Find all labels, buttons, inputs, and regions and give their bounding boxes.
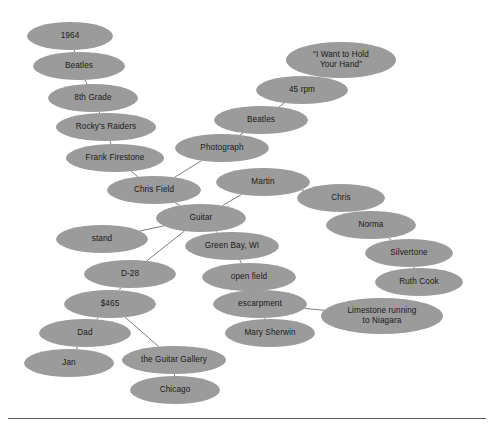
node-label: escarpment (238, 299, 282, 308)
node-label: Photograph (200, 143, 244, 152)
edge-n10-n11 (97, 318, 99, 320)
node-label: D-28 (121, 269, 139, 278)
edge-n26-n28 (305, 308, 325, 310)
concept-node[interactable]: 8th Grade (48, 84, 138, 112)
concept-map-page: 1964Beatles8th GradeRocky's RaidersFrank… (0, 0, 492, 433)
concept-node[interactable]: the Guitar Gallery (122, 346, 226, 374)
edge-n11-n12 (76, 347, 77, 349)
edge-n9-n10 (119, 288, 121, 291)
concept-node[interactable]: Beatles (214, 106, 308, 134)
node-label: Norma (358, 220, 383, 229)
node-label: “I Want to HoldYour Hand” (313, 50, 369, 70)
edge-n24-n25 (240, 260, 242, 263)
edge-n2-n3 (85, 80, 87, 84)
edge-n3-n4 (99, 112, 100, 113)
edge-n5-n6 (131, 171, 138, 177)
concept-node[interactable]: open field (202, 263, 296, 291)
node-label: Ruth Cook (399, 277, 439, 286)
edge-n6-n15 (174, 161, 201, 178)
concept-node[interactable]: Limestone runningto Niagara (321, 298, 443, 334)
edge-n21-n22 (389, 238, 392, 240)
concept-node[interactable]: Chris (297, 184, 385, 212)
concept-node[interactable]: 1964 (27, 22, 113, 50)
node-label: Beatles (65, 61, 93, 70)
node-label: Guitar (190, 213, 213, 222)
node-label: Rocky's Raiders (76, 122, 136, 131)
concept-node[interactable]: Silvertone (365, 239, 453, 267)
node-label: Jan (62, 358, 76, 367)
node-label: stand (92, 234, 113, 243)
footer-divider (8, 418, 486, 419)
concept-node[interactable]: Jan (24, 349, 114, 377)
concept-map-diagram: 1964Beatles8th GradeRocky's RaidersFrank… (0, 0, 492, 433)
edge-n7-n24 (216, 231, 218, 232)
concept-node[interactable]: Green Bay, WI (185, 232, 279, 260)
edge-n4-n5 (110, 141, 111, 144)
concept-node[interactable]: Martin (216, 168, 310, 196)
edge-n20-n21 (356, 211, 357, 212)
node-label: 1964 (61, 31, 80, 40)
node-label: Silvertone (390, 248, 428, 257)
node-label: Martin (251, 177, 275, 186)
node-label: the Guitar Gallery (141, 355, 208, 364)
concept-node[interactable]: Photograph (175, 134, 269, 162)
node-label: $465 (101, 299, 120, 308)
node-label: Chris Field (134, 185, 175, 194)
edge-n7-n8 (140, 226, 164, 231)
concept-node[interactable]: Guitar (156, 204, 246, 232)
concept-node[interactable]: “I Want to HoldYour Hand” (286, 42, 396, 78)
concept-node[interactable]: Beatles (33, 52, 125, 80)
concept-node[interactable]: Chris Field (107, 176, 201, 204)
node-label: 8th Grade (74, 93, 112, 102)
node-label: Chicago (160, 385, 191, 394)
edge-n1-n2 (74, 50, 75, 52)
concept-node[interactable]: escarpment (213, 290, 307, 318)
concept-node[interactable]: D-28 (84, 260, 176, 288)
concept-node[interactable]: $465 (64, 290, 156, 318)
edge-n7-n19 (222, 194, 241, 205)
concept-node[interactable]: Dad (39, 319, 131, 347)
edge-n16-n17 (279, 103, 285, 107)
edge-n6-n7 (175, 203, 180, 206)
concept-node[interactable]: Rocky's Raiders (56, 113, 156, 141)
concept-node[interactable]: Chicago (130, 376, 220, 404)
concept-node[interactable]: Mary Sherwin (225, 319, 315, 347)
node-label: 45 rpm (289, 85, 315, 94)
node-label: Mary Sherwin (244, 328, 296, 337)
concept-node[interactable]: stand (56, 225, 148, 253)
nodes-layer: 1964Beatles8th GradeRocky's RaidersFrank… (24, 22, 463, 404)
edge-n7-n9 (147, 231, 185, 261)
concept-node[interactable]: Frank Firestone (66, 144, 164, 172)
node-label: Frank Firestone (86, 153, 145, 162)
node-label: Green Bay, WI (205, 241, 259, 250)
node-label: Beatles (247, 115, 275, 124)
concept-node[interactable]: Ruth Cook (375, 268, 463, 296)
concept-node[interactable]: Norma (326, 211, 416, 239)
node-label: Chris (331, 193, 351, 202)
concept-node[interactable]: 45 rpm (256, 76, 348, 104)
edge-n15-n16 (240, 133, 243, 135)
node-label: open field (231, 272, 268, 281)
node-label: Dad (77, 328, 93, 337)
